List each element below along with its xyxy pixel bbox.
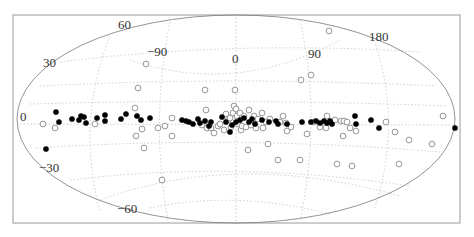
open-data-point [323,125,329,131]
open-data-point [139,126,145,132]
filled-data-point [376,125,381,130]
filled-data-point [352,113,357,118]
filled-data-point [118,116,123,121]
open-data-point [308,72,314,78]
open-data-point [349,163,355,169]
filled-data-point [208,119,213,124]
lat-label-60: 60 [118,17,131,32]
filled-data-point [284,121,289,126]
filled-data-point [78,113,83,118]
open-data-point [275,157,281,163]
filled-data-point [249,116,254,121]
filled-data-point [123,111,128,116]
open-data-point [217,121,223,127]
open-data-point [141,145,147,151]
open-data-point [344,119,350,125]
filled-data-point [202,118,207,123]
filled-data-point [299,119,304,124]
lon-label-minus-90: −90 [147,44,167,59]
open-data-point [298,77,304,83]
lat-label-0: 0 [20,109,27,124]
open-data-point [392,129,398,135]
open-data-point [40,121,46,127]
open-data-point [133,133,139,139]
filled-data-point [241,115,246,120]
open-data-point [259,110,265,116]
open-data-point [429,141,435,147]
filled-data-point [56,119,61,124]
open-data-point [211,130,217,136]
filled-data-point [329,121,334,126]
open-data-point [245,147,251,153]
lat-label-30: 30 [43,55,56,70]
filled-data-point [275,121,280,126]
open-data-point [396,161,402,167]
open-data-point [334,161,340,167]
open-data-point [246,107,252,113]
filled-data-point [102,112,107,117]
open-data-point [202,87,208,93]
open-data-point [440,113,446,119]
filled-data-point [227,129,232,134]
open-data-point [383,119,389,125]
filled-data-point [266,119,271,124]
open-data-point [297,157,303,163]
open-data-point [143,61,149,67]
open-data-point [232,87,238,93]
filled-data-point [53,109,58,114]
filled-data-point [308,119,313,124]
open-data-point [304,131,310,137]
filled-data-point [223,119,228,124]
open-data-point [347,125,353,131]
open-data-point [162,123,168,129]
filled-data-point [259,117,264,122]
open-data-point [169,133,175,139]
open-data-point [260,125,266,131]
filled-data-point [147,115,152,120]
filled-data-point [94,115,99,120]
lon-label-0: 0 [232,51,239,66]
open-data-point [324,113,330,119]
open-data-point [353,128,359,134]
lon-label-180: 180 [369,29,389,44]
filled-data-point [190,121,195,126]
open-markers [40,28,446,183]
open-data-point [340,133,346,139]
filled-data-point [102,118,107,123]
filled-data-point [69,116,74,121]
filled-data-point [353,121,358,126]
open-data-point [52,125,58,131]
filled-data-point [138,117,143,122]
filled-data-point [43,146,48,151]
open-data-point [265,141,271,147]
open-data-point [221,127,227,133]
filled-data-point [452,125,457,130]
lat-label-minus-30: −30 [39,160,59,175]
open-data-point [203,107,209,113]
lat-label-minus-60: −60 [117,201,137,216]
open-data-point [326,28,332,34]
filled-data-point [134,113,139,118]
open-data-point [406,137,412,143]
filled-data-point [252,121,257,126]
filled-data-point [368,117,373,122]
open-data-point [135,85,141,91]
filled-data-point [83,120,88,125]
lon-label-90: 90 [308,46,321,61]
all-sky-scatter-chart: 60 30 0 −30 −60 −90 0 90 180 [0,0,474,237]
open-data-point [92,121,98,127]
open-data-point [155,125,161,131]
filled-data-point [219,114,224,119]
open-data-point [169,115,175,121]
open-data-point [280,113,286,119]
open-data-point [132,105,138,111]
open-data-point [159,177,165,183]
filled-data-point [197,120,202,125]
